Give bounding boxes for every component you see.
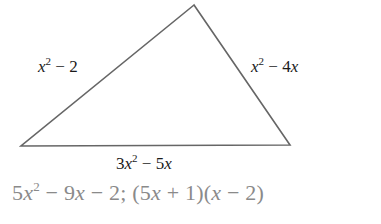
variable: x: [23, 180, 33, 205]
side-label-bottom: 3x2 − 5x: [116, 155, 172, 172]
variable: x: [164, 154, 172, 173]
variable: x: [125, 154, 133, 173]
exponent: 2: [132, 152, 138, 164]
side-label-right: x2 − 4x: [251, 58, 298, 75]
term: − 4: [264, 57, 291, 76]
term: + 1)(: [161, 180, 211, 205]
term: − 2; (5: [85, 180, 151, 205]
variable: x: [211, 180, 221, 205]
term: 5: [12, 180, 23, 205]
triangle-figure: x2 − 2 x2 − 4x 3x2 − 5x 5x2 − 9x − 2; (5…: [0, 0, 381, 224]
exponent: 2: [33, 179, 40, 194]
side-label-left: x2 − 2: [38, 58, 78, 75]
term: − 9: [40, 180, 75, 205]
exponent: 2: [259, 55, 265, 67]
term: − 2): [221, 180, 264, 205]
variable: x: [291, 57, 299, 76]
variable: x: [251, 57, 259, 76]
coefficient: 3: [116, 154, 125, 173]
term: − 5: [138, 154, 165, 173]
variable: x: [151, 180, 161, 205]
term: − 2: [51, 57, 78, 76]
variable: x: [38, 57, 46, 76]
exponent: 2: [46, 55, 52, 67]
answer-text: 5x2 − 9x − 2; (5x + 1)(x − 2): [12, 182, 264, 204]
variable: x: [75, 180, 85, 205]
